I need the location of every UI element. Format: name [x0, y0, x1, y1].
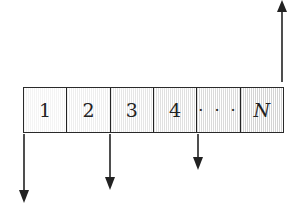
down-arrow-icon-1 [19, 134, 29, 203]
down-arrow-icon-2 [105, 134, 115, 190]
diagram-canvas: 1 2 3 4 · · · N [0, 0, 306, 214]
up-arrow-icon-n [277, 0, 287, 82]
arrows-layer [0, 0, 306, 214]
down-arrow-icon-3 [193, 134, 203, 170]
